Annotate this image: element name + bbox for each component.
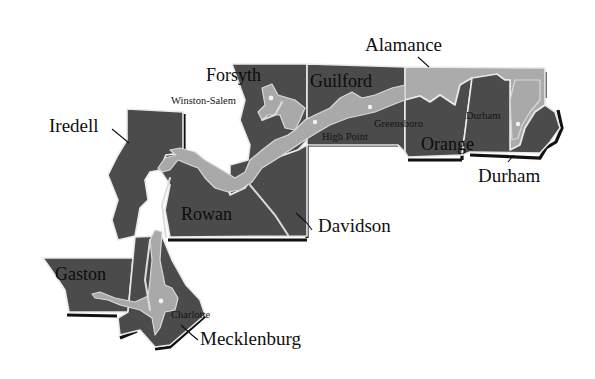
city-dot-high-point[interactable] bbox=[313, 120, 317, 124]
label-gaston: Gaston bbox=[55, 264, 106, 284]
leader-alamance bbox=[418, 57, 429, 67]
label-greensboro: Greensboro bbox=[374, 118, 423, 129]
city-dot-charlotte[interactable] bbox=[159, 299, 164, 304]
label-iredell: Iredell bbox=[49, 115, 99, 136]
county-map: Iredell Forsyth Guilford Alamance Orange… bbox=[0, 0, 595, 379]
city-dot-winston-salem[interactable] bbox=[269, 96, 274, 101]
label-winston-salem: Winston-Salem bbox=[171, 95, 236, 106]
city-dot-greensboro[interactable] bbox=[368, 105, 372, 109]
label-davidson: Davidson bbox=[318, 215, 391, 236]
label-durham-city: Durham bbox=[466, 110, 500, 121]
label-high-point: High Point bbox=[322, 131, 368, 142]
label-charlotte: Charlotte bbox=[171, 309, 210, 320]
label-orange: Orange bbox=[421, 134, 474, 154]
city-dot-durham[interactable] bbox=[516, 122, 520, 126]
label-guilford: Guilford bbox=[310, 71, 372, 91]
label-rowan: Rowan bbox=[181, 204, 232, 224]
label-alamance: Alamance bbox=[365, 34, 442, 55]
label-durham: Durham bbox=[478, 165, 540, 186]
label-mecklenburg: Mecklenburg bbox=[200, 328, 301, 349]
label-forsyth: Forsyth bbox=[206, 65, 261, 85]
